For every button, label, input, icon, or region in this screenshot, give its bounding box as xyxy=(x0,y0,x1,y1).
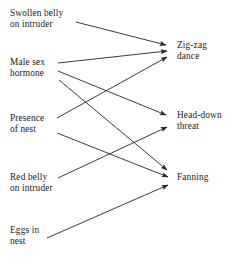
edges-group xyxy=(47,22,168,238)
node-eggs-in-nest: Eggs in nest xyxy=(10,225,39,248)
node-fanning: Fanning xyxy=(177,172,209,183)
stickleback-behaviour-diagram: Swollen belly on intruder Male sex hormo… xyxy=(0,0,238,257)
edge-eggs-in-nest-to-fanning xyxy=(47,185,168,238)
node-male-sex-hormone: Male sex hormone xyxy=(10,57,45,80)
edge-male-sex-hormone-to-zig-zag-dance xyxy=(58,51,167,63)
node-red-belly-on-intruder: Red belly on intruder xyxy=(10,172,53,195)
node-head-down-threat: Head-down threat xyxy=(177,110,222,133)
node-swollen-belly: Swollen belly on intruder xyxy=(10,8,63,31)
node-zig-zag-dance: Zig-zag dance xyxy=(177,40,207,63)
edge-swollen-belly-to-zig-zag-dance xyxy=(76,22,166,45)
node-presence-of-nest: Presence of nest xyxy=(10,113,44,136)
